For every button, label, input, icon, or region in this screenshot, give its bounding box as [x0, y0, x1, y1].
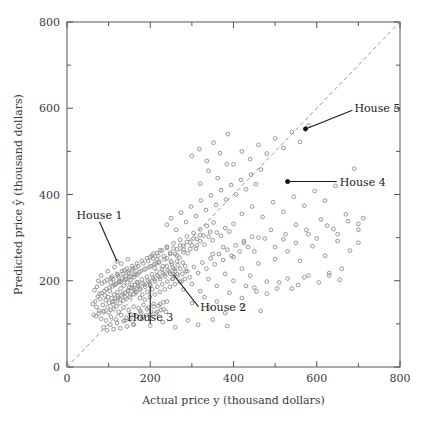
data-point: [219, 234, 223, 238]
y-tick-label-400: 400: [39, 189, 60, 202]
data-point: [99, 274, 103, 278]
data-point: [302, 204, 306, 208]
data-point: [244, 284, 248, 288]
data-point: [315, 237, 319, 241]
data-point: [261, 215, 265, 219]
data-point: [155, 285, 159, 289]
data-point: [250, 205, 254, 209]
data-point: [203, 295, 207, 299]
data-point: [336, 232, 340, 236]
data-point: [190, 282, 194, 286]
data-point: [98, 297, 102, 301]
data-point: [192, 231, 196, 235]
data-point: [189, 205, 193, 209]
data-point: [143, 298, 147, 302]
data-point: [153, 293, 157, 297]
data-point: [307, 274, 311, 278]
x-axis-label: Actual price y (thousand dollars): [141, 394, 325, 407]
x-tick-label-400: 400: [223, 372, 244, 385]
data-point: [313, 189, 317, 193]
y-tick-label-800: 800: [39, 16, 60, 29]
data-point: [204, 208, 208, 212]
data-point: [319, 218, 323, 222]
data-point: [294, 223, 298, 227]
data-point: [183, 277, 187, 281]
data-point: [225, 324, 229, 328]
data-point: [357, 222, 361, 226]
data-point: [290, 130, 294, 134]
x-tick-label-800: 800: [390, 372, 411, 385]
data-point: [180, 272, 184, 276]
data-point: [296, 283, 300, 287]
data-point: [95, 305, 99, 309]
data-point: [221, 258, 225, 262]
data-point: [185, 234, 189, 238]
data-point: [188, 275, 192, 279]
data-point: [254, 182, 258, 186]
data-point: [282, 237, 286, 241]
data-point: [186, 319, 190, 323]
data-point: [198, 289, 202, 293]
data-point: [302, 275, 306, 279]
data-point: [214, 203, 218, 207]
data-point: [148, 324, 152, 328]
data-point: [109, 281, 113, 285]
data-point: [218, 151, 222, 155]
data-point: [158, 290, 162, 294]
x-tick-label-600: 600: [306, 372, 327, 385]
data-point: [155, 270, 159, 274]
data-point: [282, 210, 286, 214]
data-point: [173, 325, 177, 329]
data-point: [179, 211, 183, 215]
data-point: [190, 301, 194, 305]
data-point: [174, 228, 178, 232]
data-point: [224, 198, 228, 202]
data-point: [273, 245, 277, 249]
data-point: [140, 278, 144, 282]
data-point: [240, 212, 244, 216]
data-point: [101, 303, 105, 307]
data-point: [217, 252, 221, 256]
data-point: [211, 252, 215, 256]
data-point: [198, 182, 202, 186]
data-point: [244, 187, 248, 191]
data-point: [352, 167, 356, 171]
data-point: [332, 227, 336, 231]
data-point: [223, 272, 227, 276]
data-point: [178, 267, 182, 271]
data-point: [122, 284, 126, 288]
data-point: [271, 200, 275, 204]
data-point: [125, 325, 129, 329]
data-point: [227, 291, 231, 295]
x-tick-label-200: 200: [140, 372, 161, 385]
data-point: [215, 231, 219, 235]
data-point: [196, 271, 200, 275]
data-point: [211, 318, 215, 322]
data-point: [286, 250, 290, 254]
data-point: [184, 220, 188, 224]
data-point: [229, 183, 233, 187]
data-point: [119, 287, 123, 291]
data-point: [259, 168, 263, 172]
data-point: [221, 245, 225, 249]
data-point: [209, 194, 213, 198]
data-point: [175, 259, 179, 263]
data-point: [325, 224, 329, 228]
data-point: [259, 309, 263, 313]
data-point: [257, 262, 261, 266]
data-point: [107, 301, 111, 305]
y-tick-label-600: 600: [39, 102, 60, 115]
data-point: [257, 236, 261, 240]
data-point: [257, 143, 261, 147]
data-point: [181, 261, 185, 265]
data-point: [163, 288, 167, 292]
data-point: [265, 280, 269, 284]
data-point: [286, 277, 290, 281]
annotation-label-3: House 3: [127, 311, 173, 324]
annotation-label-1: House 1: [76, 209, 122, 222]
data-point: [117, 310, 121, 314]
data-point: [216, 176, 220, 180]
data-point: [227, 230, 231, 234]
data-point: [294, 241, 298, 245]
data-point: [250, 235, 254, 239]
